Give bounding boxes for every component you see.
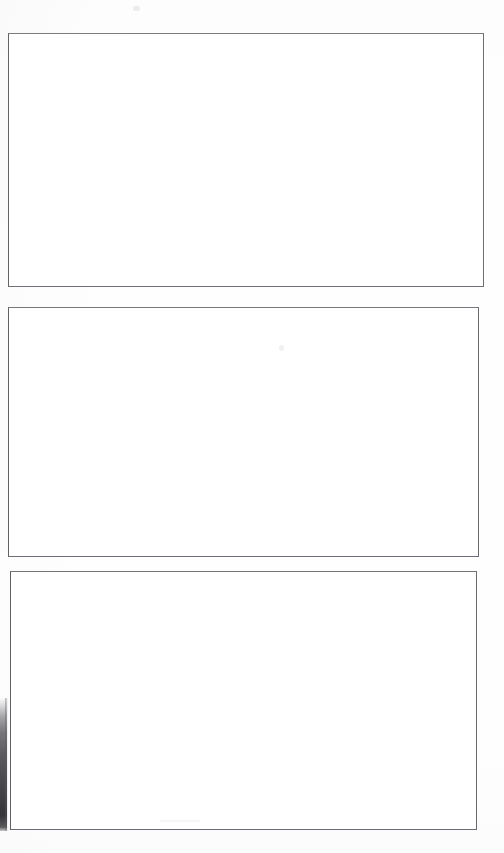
scan-speckle-icon — [133, 6, 140, 11]
content-frame-1[interactable] — [8, 33, 484, 287]
content-frame-3-label — [10, 571, 11, 572]
content-frame-2[interactable] — [8, 307, 479, 557]
scan-edge-artifact — [0, 698, 7, 831]
content-frame-1-label — [8, 33, 9, 34]
content-frame-3[interactable] — [10, 571, 477, 830]
scanned-page — [0, 0, 504, 853]
content-frame-2-label — [8, 307, 9, 308]
